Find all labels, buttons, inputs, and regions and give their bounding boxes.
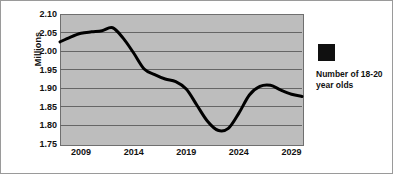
- plot-svg: [60, 14, 302, 144]
- x-axis-tick-label: 2009: [71, 147, 91, 158]
- x-axis-tick-label: 2024: [229, 147, 249, 158]
- x-axis-tick-label: 2014: [124, 147, 144, 158]
- x-axis-tick-labels: 20092014201920242029: [0, 147, 394, 163]
- x-axis-tick-label: 2029: [281, 147, 301, 158]
- chart-container: Millions 2.102.052.001.951.901.851.801.7…: [0, 0, 394, 175]
- data-series-line: [60, 27, 302, 130]
- y-axis-tick-label: 1.80: [24, 120, 57, 130]
- gridlines: [60, 33, 302, 126]
- y-axis-tick-label: 1.85: [24, 102, 57, 112]
- y-axis-tick-label: 2.00: [24, 46, 57, 56]
- x-axis-tick-label: 2019: [176, 147, 196, 158]
- legend-swatch-icon: [318, 44, 335, 61]
- legend-label: Number of 18-20 year olds: [316, 69, 388, 91]
- y-axis-tick-label: 1.90: [24, 83, 57, 93]
- y-axis-tick-label: 2.10: [24, 9, 57, 19]
- y-axis-tick-label: 2.05: [24, 28, 57, 38]
- legend: Number of 18-20 year olds: [316, 44, 392, 91]
- y-axis-tick-label: 1.95: [24, 65, 57, 75]
- data-series-group: [60, 27, 302, 130]
